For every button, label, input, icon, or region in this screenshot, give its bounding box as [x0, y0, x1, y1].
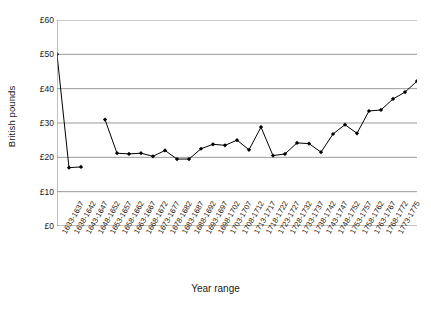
data-point-marker [259, 125, 263, 129]
data-point-marker [79, 165, 83, 169]
data-series-line [57, 54, 417, 167]
data-point-marker [67, 166, 71, 170]
y-axis-tick-label: £50 [40, 49, 54, 59]
data-point-marker [139, 151, 143, 155]
line-segment [57, 54, 81, 167]
y-axis-tick-label: £30 [40, 118, 54, 128]
chart-container: British pounds £0£10£20£30£40£50£60 1633… [0, 0, 431, 310]
data-point-marker [115, 151, 119, 155]
y-axis-tick-label: £40 [40, 84, 54, 94]
data-point-marker [367, 109, 371, 113]
y-axis-tick-label: £20 [40, 152, 54, 162]
plot-area [57, 20, 417, 226]
y-axis-title: British pounds [7, 85, 18, 147]
data-point-marker [211, 142, 215, 146]
line-segment [105, 81, 417, 159]
x-axis-title: Year range [0, 283, 431, 294]
y-axis-tick-label: £60 [40, 15, 54, 25]
data-point-marker [151, 154, 155, 158]
y-axis-tick-label: £0 [45, 221, 54, 231]
data-point-markers [57, 52, 417, 170]
data-point-marker [127, 152, 131, 156]
y-axis-ticks: £0£10£20£30£40£50£60 [20, 0, 54, 310]
y-axis-tick-label: £10 [40, 187, 54, 197]
data-point-marker [223, 143, 227, 147]
data-point-marker [103, 117, 107, 121]
